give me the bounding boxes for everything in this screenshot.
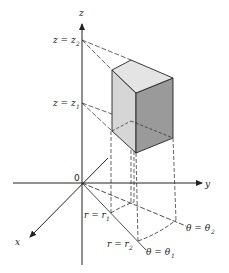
- label-theta1: θ = θ 1: [146, 247, 175, 259]
- x-axis-label: x: [15, 237, 20, 247]
- label-r2: r = r 2: [107, 239, 133, 251]
- svg-text:2: 2: [75, 40, 80, 47]
- axes: [13, 24, 202, 265]
- label-r1: r = r 1: [84, 210, 110, 222]
- svg-text:r = r: r = r: [84, 210, 107, 220]
- label-z1: z = z 1: [52, 98, 80, 110]
- svg-text:r = r: r = r: [107, 239, 130, 249]
- origin-label: 0: [74, 173, 80, 183]
- r2-arc: [138, 220, 176, 241]
- label-z2: z = z 2: [52, 35, 80, 47]
- z-axis-label: z: [78, 8, 84, 18]
- svg-text:1: 1: [106, 215, 110, 222]
- svg-text:z = z: z = z: [52, 35, 76, 45]
- svg-text:θ = θ: θ = θ: [186, 223, 211, 233]
- cylindrical-volume-diagram: z y x 0 z = z 2 z = z 1 r = r 1 r = r 2 …: [0, 0, 229, 273]
- svg-text:1: 1: [171, 252, 175, 259]
- svg-text:2: 2: [210, 228, 215, 235]
- volume-element: [112, 60, 173, 153]
- svg-text:z = z: z = z: [52, 98, 76, 108]
- r1-arc: [111, 202, 134, 213]
- svg-text:1: 1: [76, 103, 80, 110]
- label-theta2: θ = θ 2: [186, 223, 215, 235]
- y-axis-label: y: [204, 179, 211, 189]
- svg-text:2: 2: [128, 244, 133, 251]
- svg-text:θ = θ: θ = θ: [146, 247, 171, 257]
